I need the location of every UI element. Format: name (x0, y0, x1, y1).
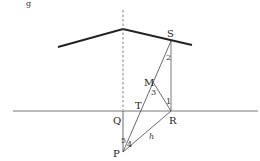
label-P: P (113, 148, 120, 159)
segment-PS (123, 41, 171, 152)
label-S: S (167, 28, 174, 39)
angle-5-label: 5 (121, 136, 126, 145)
angle-1-label: 1 (166, 97, 171, 106)
corner-label: g (26, 0, 31, 8)
segment-h-label: h (149, 132, 154, 141)
label-M: M (144, 77, 154, 88)
angle-2-label: 2 (166, 53, 171, 62)
label-Q: Q (113, 115, 121, 126)
angle-3-label: 3 (151, 88, 156, 97)
label-R: R (169, 115, 177, 126)
geometry-diagram: g S M T Q R P 1 2 3 4 5 h (0, 0, 260, 161)
label-T: T (135, 100, 142, 111)
angle-4-label: 4 (127, 140, 132, 149)
